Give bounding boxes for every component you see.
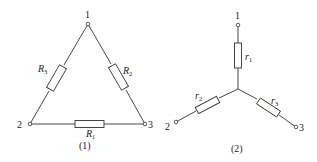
node-3-terminal (294, 125, 298, 129)
node-1-terminal (86, 22, 90, 26)
wire-arm-2-inner (219, 89, 238, 98)
resistor-label-R1: R1 (85, 128, 95, 140)
delta-network: 1 2 3 R3 R2 R1 (1) (17, 9, 153, 152)
node-label-1: 1 (85, 9, 90, 20)
wire-arm-3-inner (238, 89, 257, 99)
resistor-label-r3: r3 (271, 95, 278, 107)
resistor-label-r1: r1 (245, 51, 252, 63)
circuit-diagram: 1 2 3 R3 R2 R1 (1) 1 2 3 r1 r2 r3 (0, 0, 317, 162)
node-3-terminal (143, 122, 147, 126)
node-1-terminal (236, 23, 240, 27)
figure-caption-2: (2) (231, 143, 243, 155)
wire-arm-2-outer (176, 111, 196, 122)
wire-1-2-bottom (30, 91, 49, 124)
resistor-label-R3: R3 (37, 63, 47, 75)
wire-1-2-top (64, 24, 88, 65)
resistor-R3 (47, 65, 67, 92)
node-2-terminal (28, 122, 32, 126)
resistor-label-r2: r2 (195, 90, 202, 102)
node-label-3: 3 (148, 119, 153, 130)
resistor-r1 (235, 43, 242, 68)
star-network: 1 2 3 r1 r2 r3 (2) (165, 10, 304, 155)
resistor-R1 (75, 121, 104, 128)
node-2-terminal (174, 120, 178, 124)
node-label-2: 2 (17, 119, 22, 130)
wire-1-3-top (88, 24, 111, 64)
wire-arm-3-outer (279, 115, 296, 127)
figure-caption-1: (1) (79, 140, 91, 152)
wire-1-3-bottom (126, 90, 145, 124)
node-label-1: 1 (235, 10, 240, 21)
node-label-2: 2 (165, 121, 170, 132)
resistor-label-R2: R2 (122, 65, 132, 77)
node-label-3: 3 (299, 122, 304, 133)
